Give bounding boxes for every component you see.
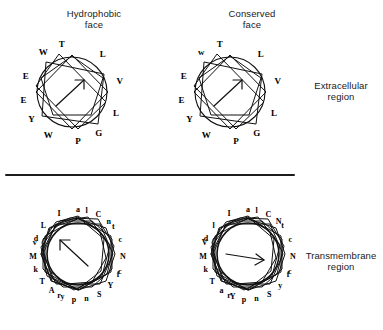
residue-label: L <box>258 49 264 58</box>
residue-label: c <box>289 234 293 243</box>
residue-label: n <box>254 294 258 303</box>
residue-label: I <box>57 209 60 218</box>
region-label-extracellular: Extracellular region <box>300 80 382 102</box>
residue-label: T <box>39 277 44 286</box>
residue-label: Y <box>186 115 193 124</box>
residue-label: n <box>84 294 88 303</box>
wheel-svg-conserved <box>170 32 290 152</box>
residue-label: P <box>233 136 239 145</box>
residue-label: c <box>119 234 123 243</box>
residue-label: V <box>116 76 123 85</box>
residue-label: T <box>217 40 223 49</box>
residue-label: E <box>23 72 29 81</box>
residue-label: a <box>76 205 80 214</box>
residue-label: A <box>49 286 55 295</box>
section-divider <box>5 174 295 176</box>
residue-label: k <box>203 265 207 274</box>
residue-label: M <box>199 251 207 260</box>
helical-wheel-hydrophobic-face: LVLTGWPEWEY <box>12 32 132 152</box>
residue-label: y <box>61 292 65 301</box>
wheel-star-polygons <box>41 216 115 290</box>
residue-label: l <box>212 221 214 230</box>
residue-label: r <box>57 290 61 299</box>
residue-label: a <box>246 205 250 214</box>
helix-direction-arrow <box>214 80 242 106</box>
residue-label: Y <box>107 281 113 290</box>
residue-label: Y <box>28 115 35 124</box>
residue-label: I <box>227 209 230 218</box>
residue-label: k <box>33 265 37 274</box>
residue-label: t <box>281 221 284 230</box>
residue-label: N <box>120 252 126 261</box>
residue-label: M <box>29 251 37 260</box>
wheel-svg-hydrophobic <box>12 32 132 152</box>
residue-label: P <box>75 136 81 145</box>
residue-label: W <box>202 130 211 139</box>
panel-title-hydrophobic-face: Hydrophobic face <box>46 8 142 30</box>
residue-label: S <box>97 289 101 298</box>
residue-label: G <box>253 129 260 138</box>
residue-label: E <box>179 95 185 104</box>
residue-label: y <box>278 281 282 290</box>
residue-label: L <box>113 109 119 118</box>
helical-wheel-transmembrane-right: alCNtcNcfySnpYraTkMVdlI <box>186 192 310 316</box>
helical-wheel-figure: Hydrophobic face LVLTGWPEWEY Conserved f… <box>0 0 383 330</box>
residue-label: W <box>44 130 53 139</box>
residue-label: a <box>220 286 224 295</box>
residue-label: S <box>267 289 271 298</box>
residue-label: G <box>95 129 102 138</box>
residue-label: L <box>41 221 46 230</box>
residue-label: T <box>59 40 65 49</box>
residue-label: d <box>34 233 38 242</box>
residue-label: l <box>255 205 257 214</box>
residue-label: d <box>204 233 208 242</box>
residue-label: f <box>287 270 290 279</box>
residue-label: r <box>227 290 231 299</box>
residue-label: L <box>271 109 277 118</box>
wheel-polygon-b <box>36 55 108 129</box>
residue-label: V <box>274 76 281 85</box>
helix-direction-arrow <box>56 80 84 106</box>
residue-label: p <box>242 294 246 303</box>
residue-label: p <box>72 294 76 303</box>
residue-label: T <box>209 277 214 286</box>
wheel-inner-circle <box>47 223 109 285</box>
residue-label: L <box>100 49 106 58</box>
helix-direction-arrow <box>60 240 88 266</box>
residue-label: W <box>39 48 48 57</box>
helical-wheel-conserved-face: LVLTGwPEWEY <box>170 32 290 152</box>
wheel-polygon-b <box>194 55 266 129</box>
residue-label: C <box>266 209 272 218</box>
residue-label: f <box>117 270 120 279</box>
residue-label: C <box>96 209 102 218</box>
residue-label: l <box>85 205 87 214</box>
residue-label: w <box>198 48 205 57</box>
residue-label: t <box>112 222 115 231</box>
helical-wheel-transmembrane-left: alCntcNcfYSnpyrATkMvdLI <box>16 192 140 316</box>
panel-title-conserved-face: Conserved face <box>204 8 300 30</box>
residue-label: E <box>21 95 27 104</box>
residue-label: N <box>290 252 296 261</box>
residue-label: n <box>106 217 110 226</box>
region-label-transmembrane: Transmembrane region <box>300 250 382 272</box>
wheel-star-polygons <box>211 216 285 290</box>
helix-direction-arrow <box>226 254 264 265</box>
residue-label: E <box>181 72 187 81</box>
